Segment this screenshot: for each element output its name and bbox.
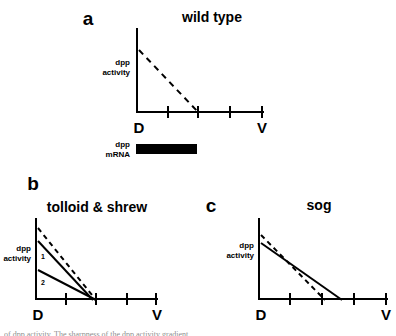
panel-a-x-start-label: D [134, 119, 145, 136]
figure-root: a wild type dpp activity D V dpp mRNA [0, 0, 396, 336]
panel-a-dpp-mrna-bar [136, 144, 197, 154]
panel-a-ylabel-line2: activity [102, 68, 130, 77]
panel-a-ylabel-line1: dpp [115, 58, 130, 67]
panel-c-x-start-label: D [256, 306, 267, 323]
panel-b-title: tolloid & shrew [47, 199, 147, 215]
panel-c-ylabel-line2: activity [226, 251, 254, 260]
panel-b-x-start-label: D [33, 306, 44, 323]
panel-c-x-end-label: V [381, 306, 391, 323]
panel-a-x-end-label: V [257, 119, 267, 136]
panel-b-ylabel-line1: dpp [16, 244, 31, 253]
panel-a-mrna-label-line1: dpp [115, 140, 130, 149]
panel-a-letter: a [83, 8, 94, 29]
figure-background [0, 0, 396, 336]
panel-b-letter: b [27, 173, 39, 194]
panel-b-curve-2-label: 2 [41, 279, 45, 286]
panel-c-title: sog [307, 197, 332, 213]
panel-b-ylabel-line2: activity [3, 254, 31, 263]
panel-a-mrna-label-line2: mRNA [106, 150, 131, 159]
dpp-activity-gradient-figure: a wild type dpp activity D V dpp mRNA [0, 0, 396, 336]
panel-c-letter: c [206, 195, 217, 216]
panel-b-curve-1-label: 1 [41, 253, 45, 260]
panel-a-title: wild type [181, 9, 242, 25]
caption-fragment: of dpp activity. The sharpness of the dp… [4, 330, 392, 336]
panel-b-x-end-label: V [152, 306, 162, 323]
panel-c-ylabel-line1: dpp [239, 241, 254, 250]
